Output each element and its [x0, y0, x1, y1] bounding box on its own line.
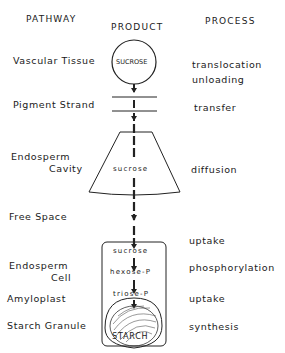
process-transfer: transfer: [194, 102, 236, 113]
process-unloading: unloading: [192, 74, 244, 85]
process-phosphorylation: phosphorylation: [189, 262, 275, 273]
process-header: PROCESS: [205, 16, 256, 26]
pathway-endosperm-cavity-1: Endosperm: [11, 151, 70, 162]
process-diffusion: diffusion: [191, 164, 237, 175]
pathway-amyloplast: Amyloplast: [7, 293, 66, 304]
pathway-endosperm-cell-2: Cell: [51, 272, 71, 283]
product-sucrose-circle: SUCROSE: [116, 58, 147, 66]
product-hexose-p: hexose-P: [110, 268, 151, 276]
product-sucrose-cell: sucrose: [113, 247, 148, 255]
product-starch: STARCH: [112, 332, 148, 341]
process-synthesis: synthesis: [189, 321, 239, 332]
pathway-free-space: Free Space: [9, 211, 67, 222]
pathway-endosperm-cavity-2: Cavity: [49, 163, 83, 174]
pathway-vascular-tissue: Vascular Tissue: [13, 55, 95, 66]
product-sucrose-cavity: sucrose: [113, 165, 148, 173]
pathway-starch-granule: Starch Granule: [7, 320, 87, 331]
process-uptake-1: uptake: [189, 235, 225, 246]
pathway-header: PATHWAY: [26, 14, 76, 24]
process-uptake-2: uptake: [189, 293, 225, 304]
product-triose-p: triose-P: [113, 290, 149, 298]
product-header: PRODUCT: [111, 22, 163, 32]
pathway-endosperm-cell-1: Endosperm: [9, 260, 68, 271]
pathway-pigment-strand: Pigment Strand: [13, 99, 95, 110]
process-translocation: translocation: [192, 59, 262, 70]
